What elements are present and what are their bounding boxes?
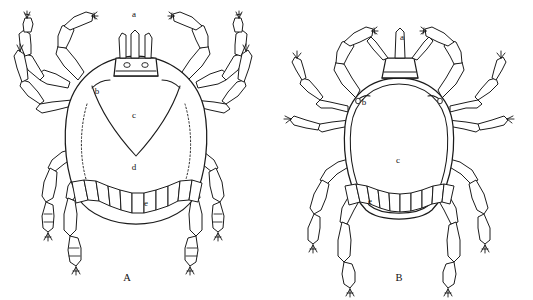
panel-a-label-d: d (132, 162, 137, 172)
panel-b-label-c: c (396, 155, 400, 165)
tick-anatomy-figure: a b c d e A (0, 0, 533, 300)
figure-canvas: a b c d e A (0, 0, 533, 300)
panel-b-label-e: e (368, 196, 372, 206)
panel-b-eye-right (438, 98, 443, 104)
panel-b-caption: B (395, 272, 402, 283)
panel-a-label-e: e (144, 198, 148, 208)
panel-b-label-b: b (362, 97, 367, 107)
panel-a-caption: A (123, 272, 131, 283)
panel-a-label-b: b (95, 86, 100, 96)
panel-a-porose-area-right (142, 63, 148, 68)
panel-b-eye-left (356, 98, 361, 104)
panel-a-label-c: c (132, 110, 136, 120)
panel-a-capitulum (114, 30, 158, 76)
panel-a-porose-area-left (124, 63, 130, 68)
panel-a-label-a: a (132, 9, 136, 19)
panel-b-label-a: a (400, 32, 404, 42)
